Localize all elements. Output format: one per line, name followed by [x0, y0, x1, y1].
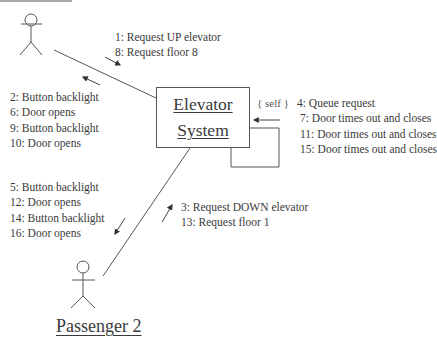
- elevator-system-object: Elevator System: [156, 87, 250, 148]
- message: 9: Button backlight: [10, 121, 99, 136]
- message: 2: Button backlight: [10, 90, 99, 105]
- message: 13: Request floor 1: [181, 215, 308, 230]
- message: 3: Request DOWN elevator: [181, 200, 308, 215]
- arrow-from-passenger2-icon: [162, 205, 172, 222]
- messages-p1-to-system: 1: Request UP elevator 8: Request floor …: [115, 30, 221, 61]
- message: 5: Button backlight: [10, 180, 105, 195]
- message: 16: Door opens: [10, 226, 105, 241]
- actor-passenger1-icon: [20, 14, 42, 55]
- message: 4: Queue request: [297, 96, 437, 111]
- messages-system-to-p1: 2: Button backlight 6: Door opens 9: But…: [10, 90, 99, 151]
- message: 11: Door times out and closes: [297, 127, 437, 142]
- message: 14: Button backlight: [10, 211, 105, 226]
- message: 12: Door opens: [10, 195, 105, 210]
- message: 7: Door times out and closes: [297, 111, 437, 126]
- messages-self: 4: Queue request 7: Door times out and c…: [297, 96, 437, 157]
- passenger2-label: Passenger 2: [56, 316, 141, 337]
- message: 1: Request UP elevator: [115, 30, 221, 45]
- self-label: { self }: [257, 97, 289, 109]
- arrow-to-passenger1-icon: [83, 77, 100, 85]
- message: 15: Door times out and closes: [297, 142, 437, 157]
- link-system-passenger2: [103, 148, 190, 276]
- message: 6: Door opens: [10, 105, 99, 120]
- message: 8: Request floor 8: [115, 45, 221, 60]
- messages-p2-to-system: 3: Request DOWN elevator 13: Request flo…: [181, 200, 308, 231]
- arrow-to-passenger2-icon: [115, 218, 125, 234]
- system-name-line2: System: [157, 120, 249, 141]
- messages-system-to-p2: 5: Button backlight 12: Door opens 14: B…: [10, 180, 105, 241]
- system-name-line1: Elevator: [157, 94, 249, 115]
- message: 10: Door opens: [10, 136, 99, 151]
- actor-passenger2-icon: [71, 261, 95, 308]
